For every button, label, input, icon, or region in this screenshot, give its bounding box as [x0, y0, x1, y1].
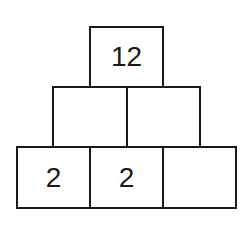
pyramid-cell-bottom-right: [162, 146, 237, 209]
pyramid-cell-bottom-middle: 2: [89, 146, 164, 209]
pyramid-cell-middle-right: [126, 86, 201, 148]
pyramid-cell-middle-left: [52, 86, 128, 148]
pyramid-cell-bottom-left: 2: [16, 146, 91, 209]
pyramid-cell-top: 12: [89, 26, 164, 88]
